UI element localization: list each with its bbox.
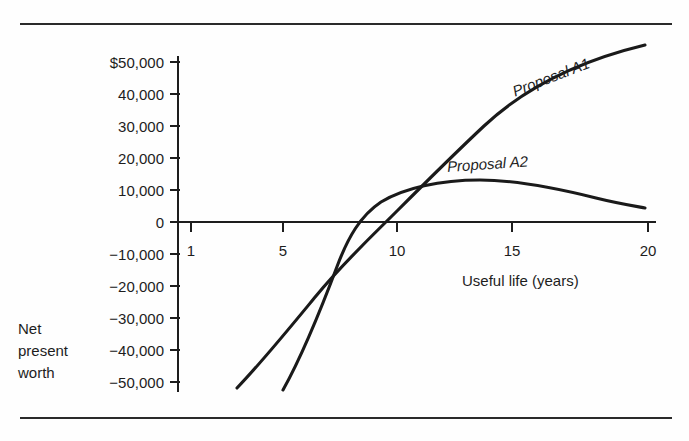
y-axis-title-line-3: worth — [18, 362, 68, 384]
x-tick-label-20: 20 — [628, 243, 668, 258]
y-tick-label-neg30000: −30,000 — [68, 311, 164, 326]
y-tick-label-neg20000: −20,000 — [68, 279, 164, 294]
y-tick-label-40000: 40,000 — [68, 87, 164, 102]
x-axis-title: Useful life (years) — [462, 272, 579, 289]
x-tick-label-15: 15 — [492, 243, 532, 258]
y-tick-label-neg50000: −50,000 — [68, 375, 164, 390]
y-tick-label-neg40000: −40,000 — [68, 343, 164, 358]
curve-proposal-a1 — [237, 45, 645, 388]
y-tick-label-30000: 30,000 — [68, 119, 164, 134]
x-tick-label-1: 1 — [171, 243, 211, 258]
y-tick-label-20000: 20,000 — [68, 151, 164, 166]
x-tick-label-5: 5 — [263, 243, 303, 258]
figure-container: $50,000 40,000 30,000 20,000 10,000 0 −1… — [0, 0, 689, 441]
axis-lines — [178, 56, 656, 392]
y-axis-title: Net present worth — [18, 318, 68, 384]
x-tick-label-10: 10 — [377, 243, 417, 258]
y-tick-label-neg10000: −10,000 — [68, 247, 164, 262]
y-tick-label-50000: $50,000 — [68, 55, 164, 70]
y-axis-title-line-2: present — [18, 340, 68, 362]
y-tick-label-10000: 10,000 — [68, 183, 164, 198]
y-tick-label-0: 0 — [68, 215, 164, 230]
y-axis-title-line-1: Net — [18, 318, 68, 340]
x-axis-ticks — [191, 222, 648, 232]
